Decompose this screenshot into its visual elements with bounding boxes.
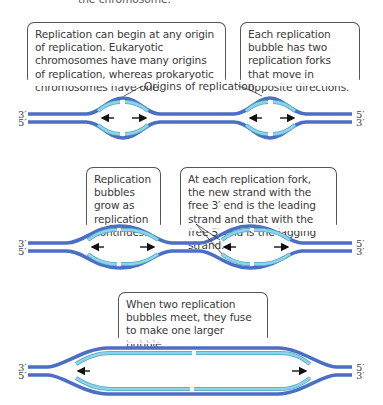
parental-strand-top (28, 98, 352, 114)
origin-leader-line (124, 86, 143, 96)
panel3-dna (28, 348, 352, 394)
replication-diagram (0, 0, 383, 405)
origin-leader-line (238, 86, 262, 96)
panel2-dna (28, 224, 352, 268)
parental-strand-top (28, 226, 352, 243)
panel1-dna (28, 86, 352, 138)
parental-strand-bottom (28, 122, 352, 138)
parental-strand-bottom (28, 251, 352, 268)
